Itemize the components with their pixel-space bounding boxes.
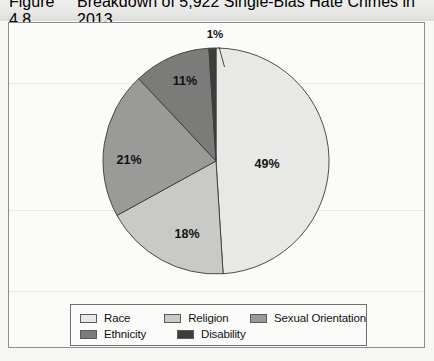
- legend-item-disability[interactable]: Disability: [177, 326, 276, 342]
- legend-label: Disability: [201, 328, 246, 340]
- legend-item-sexual-orientation[interactable]: Sexual Orientation: [250, 310, 366, 326]
- legend-swatch-icon: [164, 314, 181, 323]
- pie-chart-svg: 49%18%21%11%1%: [9, 23, 426, 349]
- pie-chart: 49%18%21%11%1%: [9, 23, 426, 349]
- legend-label: Race: [104, 312, 130, 324]
- legend-swatch-icon: [177, 330, 194, 339]
- chart-frame: 49%18%21%11%1% Race Religion Sexual Orie…: [8, 22, 425, 348]
- legend-item-ethnicity[interactable]: Ethnicity: [80, 326, 177, 342]
- legend-swatch-icon: [80, 330, 97, 339]
- figure-title-bar: Figure 4.8 Breakdown of 5,922 Single-Bia…: [0, 0, 434, 21]
- legend-swatch-icon: [250, 314, 267, 323]
- legend-swatch-icon: [80, 314, 97, 323]
- chart-legend: Race Religion Sexual Orientation Ethnici…: [70, 304, 367, 346]
- legend-row: Race Religion Sexual Orientation: [80, 310, 366, 326]
- legend-label: Ethnicity: [104, 328, 146, 340]
- legend-item-race[interactable]: Race: [80, 310, 164, 326]
- legend-label: Sexual Orientation: [274, 312, 366, 324]
- legend-label: Religion: [188, 312, 228, 324]
- pie-slice-label: 21%: [116, 153, 141, 167]
- legend-row: Ethnicity Disability: [80, 326, 366, 342]
- pie-slice-label: 1%: [207, 28, 224, 40]
- legend-item-religion[interactable]: Religion: [164, 310, 250, 326]
- pie-slice-label: 11%: [173, 74, 197, 88]
- pie-slice-label: 18%: [174, 227, 199, 241]
- pie-slice-label: 49%: [254, 157, 279, 171]
